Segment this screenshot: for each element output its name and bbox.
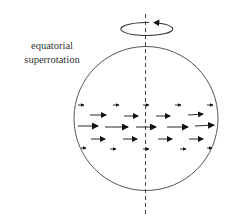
superrotation-diagram bbox=[0, 0, 233, 216]
arrow-row-2 bbox=[90, 114, 203, 116]
rotation-arrow-icon bbox=[121, 20, 173, 36]
arrow-row-5 bbox=[81, 148, 212, 149]
